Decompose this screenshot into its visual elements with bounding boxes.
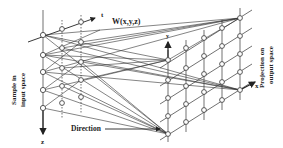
diagram-canvas: t W(x,y,z) z y x Direction Sample in inp… [0, 0, 283, 148]
axis-z-label: z [41, 138, 44, 146]
svg-text:Projection on: Projection on [258, 48, 266, 88]
input-space-label: Sample in input space [10, 73, 27, 107]
direction-label: Direction [71, 124, 102, 133]
output-space-label: Projection on output space [258, 46, 275, 88]
mapping-lines [43, 18, 240, 134]
axis-y-label: y [166, 33, 169, 39]
axis-t-label: t [101, 11, 104, 19]
svg-text:output space: output space [267, 46, 275, 84]
svg-text:Sample in: Sample in [10, 75, 18, 105]
svg-text:input space: input space [19, 73, 27, 107]
weight-label: W(x,y,z) [112, 17, 141, 26]
